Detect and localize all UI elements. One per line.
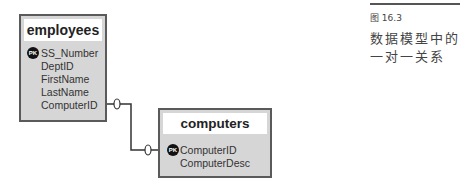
table-title: employees: [24, 19, 102, 41]
zero-cardinality-marker-computers: [145, 145, 151, 155]
employees-table[interactable]: employees PK SS_Number DeptID FirstName …: [19, 14, 107, 122]
figure-number: 图 16.3: [370, 11, 402, 24]
field-computer-id: ComputerID: [41, 99, 98, 111]
computers-table[interactable]: computers PK ComputerID ComputerDesc: [158, 108, 272, 178]
table-title: computers: [163, 113, 267, 134]
figure-caption: 数据模型中的一对一关系: [370, 30, 465, 66]
field-computer-desc: ComputerDesc: [180, 157, 250, 169]
primary-key-icon: PK: [167, 144, 179, 156]
field-dept-id: DeptID: [41, 60, 74, 72]
field-last-name: LastName: [41, 86, 89, 98]
field-ss-number: SS_Number: [41, 47, 98, 59]
zero-cardinality-marker-employees: [114, 99, 120, 109]
caption-divider: [370, 3, 460, 5]
field-computer-id: ComputerID: [180, 144, 237, 156]
field-first-name: FirstName: [41, 73, 89, 85]
primary-key-icon: PK: [27, 47, 39, 59]
